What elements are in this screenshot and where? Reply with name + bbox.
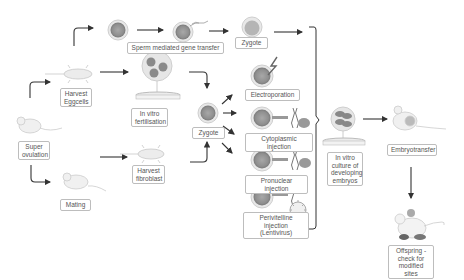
label-in-vitro-fertilisation: In vitro fertilisation bbox=[131, 108, 168, 127]
cell-cytoplasmic bbox=[251, 107, 310, 129]
arrow-ivf-to-zygote bbox=[189, 72, 207, 88]
arrow-zygote-to-electro bbox=[222, 95, 232, 104]
label-harvest-eggcells: Harvest Eggcells bbox=[60, 88, 92, 107]
cell-culture-dish bbox=[323, 107, 365, 145]
mouse-offspring bbox=[395, 209, 444, 240]
label-harvest-fibroblast: Harvest fibroblast bbox=[132, 165, 165, 184]
label-electroporation: Electroporation bbox=[245, 89, 300, 101]
arrow-fibroblast-to-zygote bbox=[190, 142, 207, 162]
label-pronuclear-injection: Pronuclear injection bbox=[245, 175, 308, 194]
arrow-zygote-to-periv bbox=[222, 143, 232, 153]
cell-zygote-mid bbox=[198, 103, 218, 123]
diagram-canvas: Super ovulation Harvest Eggcells Mating … bbox=[0, 0, 464, 280]
arrow-super-to-mating bbox=[31, 165, 50, 182]
cell-ivf-dish bbox=[136, 51, 180, 99]
mouse-harvest-eggcells bbox=[45, 65, 92, 83]
label-in-vitro-culture: In vitro culture of developing embryos bbox=[327, 152, 363, 186]
arrow-to-sperm-path bbox=[74, 28, 93, 46]
label-perivitelline-injection: Perivitelline injection (Lentivirus) bbox=[243, 212, 309, 239]
label-sperm-mediated-gene-transfer: Sperm mediated gene transfer bbox=[127, 42, 224, 54]
label-cytoplasmic-injection: Cytoplasmic injection bbox=[245, 133, 313, 152]
bracket bbox=[309, 27, 319, 229]
cell-oocyte-top bbox=[108, 20, 128, 40]
label-mating: Mating bbox=[60, 199, 91, 211]
cell-pronuclear bbox=[251, 149, 311, 171]
label-embryotransfer: Embryotransfer bbox=[387, 144, 437, 156]
cell-sperm-oocyte bbox=[173, 21, 208, 42]
mouse-super-ovulation bbox=[17, 117, 62, 133]
label-zygote-mid: Zygote bbox=[192, 127, 225, 139]
cell-zygote-top bbox=[242, 17, 262, 37]
arrow-super-to-harvest bbox=[30, 82, 50, 98]
mouse-harvest-fibroblast bbox=[120, 145, 164, 163]
cell-electroporation bbox=[251, 57, 277, 87]
label-zygote-top: Zygote bbox=[235, 37, 268, 49]
label-offspring: Offspring - check for modified sites bbox=[388, 245, 434, 279]
diagram-graphics bbox=[0, 0, 464, 280]
mouse-mating bbox=[63, 173, 106, 191]
mouse-embryotransfer bbox=[393, 106, 446, 130]
label-super-ovulation: Super ovulation bbox=[18, 141, 50, 160]
